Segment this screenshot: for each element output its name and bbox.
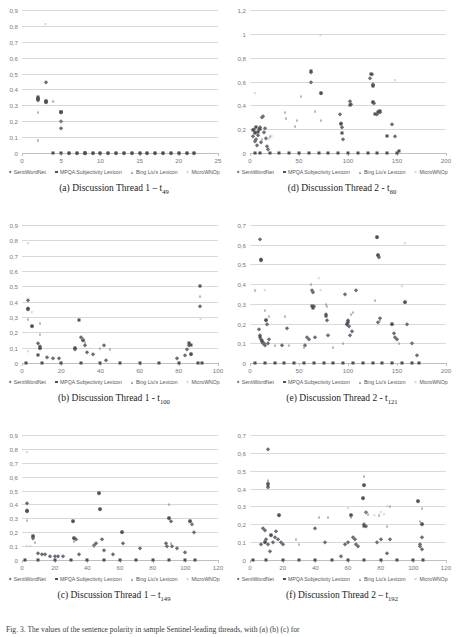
plot-region-c: 00,10,20,30,40,50,60,70,80,9020406080100… <box>0 425 228 576</box>
square-marker-icon <box>77 319 80 322</box>
legend-label: Bing Liu's Lexicon <box>136 576 178 582</box>
square-marker-icon <box>278 514 281 517</box>
y-gridline <box>22 105 218 106</box>
cross-icon <box>186 380 190 384</box>
plot-region-b: 00,10,20,30,40,50,60,70,80,9020406080100… <box>0 215 228 379</box>
y-gridline <box>22 363 218 364</box>
panel-caption-subscript: 49 <box>162 188 169 195</box>
legend-item-mpqa-subjectivity-lexicon[interactable]: MPQA Subjectivity Lexicon <box>282 169 350 175</box>
legend-item-sentiwordnet[interactable]: SentiWordNet <box>236 169 274 175</box>
x-axis-tickmark <box>250 153 251 156</box>
x-axis-tickmark <box>153 560 154 563</box>
diamond-marker-icon <box>77 553 81 557</box>
triangle-icon <box>358 577 362 581</box>
legend-item-bing-liu-s-lexicon[interactable]: Bing Liu's Lexicon <box>130 169 177 175</box>
figure-panel-grid: 00,10,20,30,40,50,60,70,80,90510152025××… <box>0 0 456 622</box>
legend-item-sentiwordnet[interactable]: SentiWordNet <box>236 379 274 385</box>
x-axis-tick-label: 50 <box>296 157 303 164</box>
square-marker-icon <box>341 131 344 134</box>
diamond-marker-icon <box>91 352 95 356</box>
x-axis-tick-label: 100 <box>213 367 223 374</box>
x-axis-tickmark <box>446 560 447 563</box>
plot-region-e: 00,10,20,30,40,50,60,7050100150200×××××× <box>228 215 456 379</box>
x-axis-tick-label: 120 <box>441 564 451 571</box>
diamond-marker-icon <box>264 136 268 140</box>
legend-item-sentiwordnet[interactable]: SentiWordNet <box>8 169 46 175</box>
y-gridline <box>22 26 218 27</box>
legend-label: MicroWNOp <box>420 169 448 175</box>
legend-item-bing-liu-s-lexicon[interactable]: Bing Liu's Lexicon <box>358 576 405 582</box>
diamond-marker-icon <box>36 98 40 102</box>
panel-caption-text: Discussion Thread 2 - t <box>301 183 389 193</box>
y-axis-tick-label: 0,3 <box>0 102 18 109</box>
diamond-marker-icon <box>370 73 374 77</box>
diamond-marker-icon <box>183 550 187 554</box>
x-axis-tick-label: 0 <box>248 157 251 164</box>
diamond-marker-icon <box>350 330 354 334</box>
y-gridline <box>22 449 218 450</box>
diamond-marker-icon <box>81 338 85 342</box>
x-axis-tick-label: 0 <box>248 564 251 571</box>
diamond-marker-icon <box>59 111 63 115</box>
diamond-marker-icon <box>309 70 313 74</box>
y-gridline <box>250 264 446 265</box>
diamond-marker-icon <box>339 121 343 125</box>
y-gridline <box>22 546 218 547</box>
legend-label: MPQA Subjectivity Lexicon <box>60 576 122 582</box>
cross-marker-icon: × <box>263 288 266 293</box>
legend-item-micrownop[interactable]: MicroWNOp <box>414 169 448 175</box>
square-marker-icon <box>374 112 377 115</box>
square-marker-icon <box>81 339 84 342</box>
legend-item-mpqa-subjectivity-lexicon[interactable]: MPQA Subjectivity Lexicon <box>282 576 350 582</box>
x-axis-tickmark <box>179 363 180 366</box>
legend-item-micrownop[interactable]: MicroWNOp <box>186 169 220 175</box>
legend-item-bing-liu-s-lexicon[interactable]: Bing Liu's Lexicon <box>358 379 405 385</box>
diamond-marker-icon <box>268 549 272 553</box>
legend-item-sentiwordnet[interactable]: SentiWordNet <box>236 576 274 582</box>
y-axis-tick-label: 0,7 <box>228 222 246 229</box>
x-axis-tick-label: 25 <box>215 157 222 164</box>
panel-caption-label: (c) <box>58 590 69 600</box>
diamond-marker-icon <box>356 544 360 548</box>
legend-item-micrownop[interactable]: MicroWNOp <box>414 379 448 385</box>
legend-item-micrownop[interactable]: MicroWNOp <box>186 379 220 385</box>
cross-icon <box>414 170 418 174</box>
legend-item-sentiwordnet[interactable]: SentiWordNet <box>8 576 46 582</box>
triangle-marker-icon <box>39 322 41 325</box>
legend-item-mpqa-subjectivity-lexicon[interactable]: MPQA Subjectivity Lexicon <box>54 576 122 582</box>
y-axis-tick-label: 0,6 <box>0 54 18 61</box>
y-axis-tick-label: 0,8 <box>0 445 18 452</box>
diamond-marker-icon <box>59 110 63 114</box>
diamond-marker-icon <box>340 125 344 129</box>
legend-item-mpqa-subjectivity-lexicon[interactable]: MPQA Subjectivity Lexicon <box>282 379 350 385</box>
legend-item-bing-liu-s-lexicon[interactable]: Bing Liu's Lexicon <box>130 379 177 385</box>
diamond-marker-icon <box>313 526 317 530</box>
legend-label: SentiWordNet <box>14 576 46 582</box>
square-icon <box>54 380 58 384</box>
x-axis-tick-label: 50 <box>296 367 303 374</box>
x-axis-tick-label: 5 <box>59 157 62 164</box>
diamond-marker-icon <box>372 100 376 104</box>
square-marker-icon <box>376 235 379 238</box>
y-gridline <box>22 42 218 43</box>
square-marker-icon <box>361 496 364 499</box>
triangle-marker-icon <box>367 512 369 515</box>
legend-item-mpqa-subjectivity-lexicon[interactable]: MPQA Subjectivity Lexicon <box>54 379 122 385</box>
legend-item-mpqa-subjectivity-lexicon[interactable]: MPQA Subjectivity Lexicon <box>54 169 122 175</box>
x-axis-tickmark <box>55 560 56 563</box>
legend-label: MPQA Subjectivity Lexicon <box>288 169 350 175</box>
legend-item-bing-liu-s-lexicon[interactable]: Bing Liu's Lexicon <box>130 576 177 582</box>
triangle-marker-icon <box>379 318 381 321</box>
legend-item-bing-liu-s-lexicon[interactable]: Bing Liu's Lexicon <box>358 169 405 175</box>
legend-item-micrownop[interactable]: MicroWNOp <box>414 576 448 582</box>
diamond-marker-icon <box>259 337 263 341</box>
y-axis-tick-label: 0,7 <box>0 252 18 259</box>
legend-item-micrownop[interactable]: MicroWNOp <box>186 576 220 582</box>
diamond-marker-icon <box>265 144 269 148</box>
x-axis-tickmark <box>218 560 219 563</box>
legend-item-sentiwordnet[interactable]: SentiWordNet <box>8 379 46 385</box>
y-axis-tick-label: 0,3 <box>0 314 18 321</box>
x-axis-tickmark <box>250 560 251 563</box>
panel-caption-e: (e) Discussion Thread 2 - t121 <box>228 393 456 405</box>
y-gridline <box>250 129 446 130</box>
